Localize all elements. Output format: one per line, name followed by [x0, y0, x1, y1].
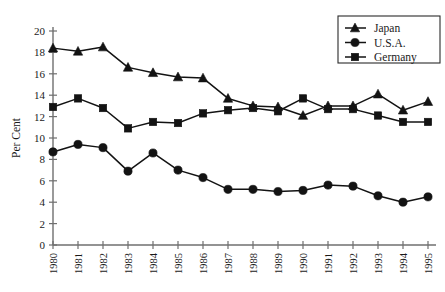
data-point-circle [124, 167, 132, 175]
x-axis-tick-label: 1987 [223, 253, 234, 274]
x-axis-tick-label: 1992 [348, 253, 359, 274]
data-point-square [49, 103, 56, 110]
data-point-circle [149, 149, 157, 157]
data-point-square [149, 118, 156, 125]
x-axis-tick-label: 1995 [423, 253, 434, 274]
data-point-square [224, 106, 231, 113]
data-point-square [374, 112, 381, 119]
data-point-circle [224, 185, 232, 193]
y-axis-tick-label: 2 [40, 218, 46, 230]
x-axis-tick-label: 1993 [373, 253, 384, 274]
y-axis-tick-label: 8 [40, 153, 46, 165]
x-axis-tick-label: 1985 [173, 253, 184, 274]
data-point-square [249, 104, 256, 111]
data-point-circle [351, 38, 359, 46]
y-axis-tick-label: 18 [34, 46, 46, 58]
chart-canvas: 02468101214161820Per Cent198019811982198… [0, 0, 445, 292]
data-point-triangle [423, 97, 432, 106]
data-point-circle [99, 144, 107, 152]
x-axis-tick-label: 1989 [273, 253, 284, 274]
x-axis-tick-label: 1990 [298, 253, 309, 274]
data-point-square [349, 105, 356, 112]
data-point-circle [299, 186, 307, 194]
data-point-square [399, 118, 406, 125]
y-axis-tick-label: 0 [40, 239, 46, 251]
x-axis-tick-label: 1983 [123, 253, 134, 274]
legend-label-japan: Japan [374, 22, 400, 35]
data-point-square [351, 53, 358, 60]
legend-label-usa: U.S.A. [374, 37, 406, 49]
data-point-circle [74, 140, 82, 148]
y-axis-tick-label: 6 [40, 175, 46, 187]
data-point-square [199, 110, 206, 117]
y-axis-tick-label: 20 [34, 25, 46, 37]
data-point-triangle [48, 43, 57, 52]
data-point-square [74, 95, 81, 102]
series-germany [49, 95, 431, 132]
data-point-circle [274, 187, 282, 195]
x-axis-tick-label: 1986 [198, 253, 209, 274]
data-point-circle [349, 182, 357, 190]
x-axis-tick-label: 1991 [323, 253, 334, 274]
legend-label-germany: Germany [374, 51, 417, 64]
data-point-square [424, 118, 431, 125]
x-axis-tick-label: 1988 [248, 253, 259, 274]
data-point-square [99, 104, 106, 111]
x-axis-tick-label: 1982 [98, 253, 109, 274]
data-point-circle [424, 193, 432, 201]
data-point-triangle [98, 42, 107, 51]
y-axis-tick-label: 14 [34, 89, 46, 101]
data-point-circle [49, 148, 57, 156]
data-point-circle [174, 166, 182, 174]
data-point-triangle [373, 89, 382, 98]
data-point-circle [249, 185, 257, 193]
data-point-square [299, 95, 306, 102]
line-chart: 02468101214161820Per Cent198019811982198… [0, 0, 445, 292]
y-axis-tick-label: 16 [34, 68, 46, 80]
data-point-circle [374, 192, 382, 200]
data-point-square [124, 125, 131, 132]
y-axis-tick-label: 10 [34, 132, 46, 144]
data-point-square [174, 119, 181, 126]
data-point-circle [199, 173, 207, 181]
data-point-circle [399, 198, 407, 206]
series-usa [49, 140, 432, 206]
x-axis-tick-label: 1981 [73, 253, 84, 274]
x-axis-tick-label: 1980 [48, 253, 59, 274]
x-axis-tick-label: 1984 [148, 252, 159, 274]
data-point-square [274, 108, 281, 115]
x-axis-tick-label: 1994 [398, 252, 409, 274]
data-point-circle [324, 181, 332, 189]
y-axis-tick-label: 12 [34, 111, 45, 123]
y-axis-title: Per Cent [10, 117, 22, 158]
y-axis-tick-label: 4 [40, 196, 46, 208]
series-line [53, 144, 428, 202]
data-point-square [324, 105, 331, 112]
